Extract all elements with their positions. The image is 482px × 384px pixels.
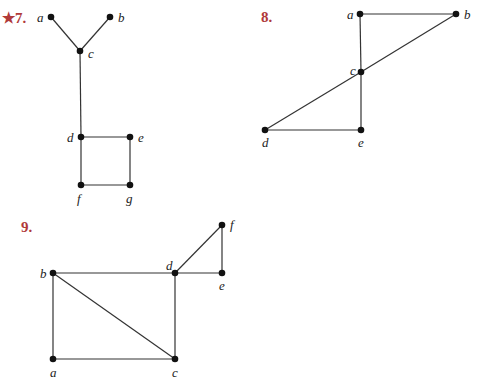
edge-a-c (51, 17, 80, 51)
vertex-label-c: c (88, 46, 94, 61)
vertex-a (357, 11, 364, 18)
vertex-label-a: a (37, 10, 44, 25)
vertex-d (262, 127, 269, 134)
vertex-a (50, 356, 57, 363)
vertex-label-a: a (50, 365, 57, 380)
vertex-b (50, 270, 57, 277)
vertex-label-f: f (230, 217, 236, 232)
vertex-c (358, 69, 365, 76)
nodes-layer: abcdefgabcdeabcdef (37, 7, 471, 380)
vertex-label-f: f (77, 191, 83, 206)
vertex-d (172, 270, 179, 277)
vertex-g (127, 182, 134, 189)
vertex-label-b: b (40, 266, 47, 281)
vertex-f (219, 222, 226, 229)
edge-d-f (175, 225, 222, 273)
edge-c-d (80, 51, 81, 137)
edge-b-c (361, 14, 456, 72)
vertex-f (78, 182, 85, 189)
exercise-number-7: ★7. (2, 10, 27, 26)
vertex-b (107, 14, 114, 21)
edge-b-c (80, 17, 110, 51)
vertex-e (219, 270, 226, 277)
vertex-label-e: e (219, 278, 225, 293)
vertex-a (48, 14, 55, 21)
vertex-label-e: e (138, 130, 144, 145)
vertex-c (77, 48, 84, 55)
vertex-label-c: c (172, 365, 178, 380)
vertex-label-c: c (350, 63, 356, 78)
vertex-e (358, 127, 365, 134)
vertex-label-d: d (262, 135, 269, 150)
vertex-label-b: b (118, 10, 125, 25)
edge-a-c (360, 14, 361, 72)
vertex-b (453, 11, 460, 18)
vertex-label-d: d (166, 258, 173, 273)
graph-diagrams: ★7. 8. 9. abcdefgabcdeabcdef (0, 0, 482, 384)
vertex-label-a: a (347, 7, 354, 22)
vertex-label-b: b (464, 7, 471, 22)
vertex-label-e: e (358, 135, 364, 150)
edge-b-c (53, 273, 175, 359)
vertex-c (172, 356, 179, 363)
vertex-d (78, 134, 85, 141)
edge-c-d (265, 72, 361, 130)
vertex-label-d: d (67, 130, 74, 145)
vertex-e (127, 134, 134, 141)
vertex-label-g: g (126, 191, 133, 206)
exercise-number-8: 8. (261, 9, 273, 25)
exercise-number-9: 9. (21, 219, 33, 235)
edges-layer (51, 14, 456, 359)
